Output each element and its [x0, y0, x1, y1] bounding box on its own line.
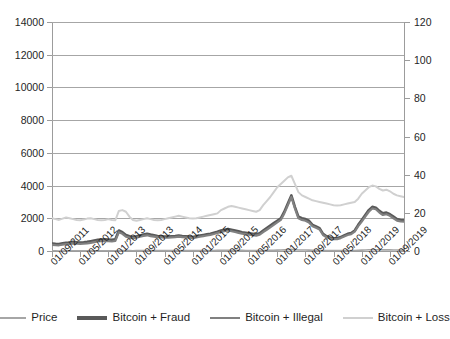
legend-swatch-icon — [343, 317, 373, 320]
chart-legend: PriceBitcoin + FraudBitcoin + IllegalBit… — [0, 308, 446, 328]
legend-item[interactable]: Bitcoin + Loss — [343, 312, 450, 324]
y-axis-right-tick-label: 0 — [414, 246, 420, 257]
y-axis-right-tick — [405, 22, 410, 23]
y-axis-left-tick-label: 4000 — [0, 181, 44, 192]
legend-swatch-icon — [210, 317, 240, 320]
y-axis-right-tick — [405, 175, 410, 176]
legend-label: Price — [31, 312, 57, 324]
y-axis-right-tick-label: 40 — [414, 170, 426, 181]
y-axis-right-tick-label: 100 — [414, 55, 432, 66]
y-axis-right-tick — [405, 98, 410, 99]
y-axis-left-tick-label: 10000 — [0, 82, 44, 93]
y-axis-left-tick-label: 12000 — [0, 50, 44, 61]
y-axis-right-tick-label: 80 — [414, 93, 426, 104]
legend-item[interactable]: Bitcoin + Illegal — [210, 312, 323, 324]
y-axis-right-tick — [405, 137, 410, 138]
legend-label: Bitcoin + Fraud — [112, 312, 190, 324]
legend-item[interactable]: Bitcoin + Fraud — [77, 312, 190, 324]
y-axis-right-tick-label: 20 — [414, 208, 426, 219]
series-line — [52, 176, 404, 221]
legend-label: Bitcoin + Loss — [378, 312, 450, 324]
y-axis-left-tick-label: 14000 — [0, 17, 44, 28]
y-axis-left-tick-label: 6000 — [0, 148, 44, 159]
y-axis-left-tick-label: 0 — [0, 246, 44, 257]
series-layer — [52, 22, 404, 251]
y-axis-left-tick-label: 2000 — [0, 213, 44, 224]
y-axis-right-tick — [405, 213, 410, 214]
plot-area — [52, 22, 404, 251]
y-axis-left-tick-label: 8000 — [0, 115, 44, 126]
legend-swatch-icon — [77, 316, 107, 320]
legend-swatch-icon — [0, 317, 26, 320]
y-axis-right-tick-label: 120 — [414, 17, 432, 28]
y-axis-right-tick — [405, 60, 410, 61]
legend-label: Bitcoin + Illegal — [245, 312, 323, 324]
legend-item[interactable]: Price — [0, 312, 57, 324]
y-axis-right-tick-label: 60 — [414, 132, 426, 143]
